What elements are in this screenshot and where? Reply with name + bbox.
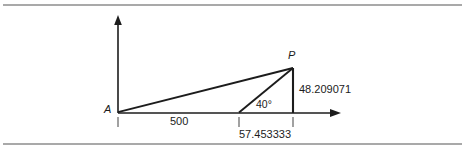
x-axis-arrowhead xyxy=(330,109,341,117)
figure-container: A P 48.209071 500 57.453333 40° xyxy=(0,0,475,150)
y-axis-arrowhead xyxy=(114,15,122,25)
point-p-label: P xyxy=(288,50,295,61)
geometry-diagram xyxy=(0,0,475,150)
point-a-label: A xyxy=(104,104,111,115)
x-axis xyxy=(118,109,341,117)
base-value-label: 500 xyxy=(170,116,188,127)
offset-value-label: 57.453333 xyxy=(239,129,291,140)
y-axis xyxy=(114,15,122,113)
height-value-label: 48.209071 xyxy=(299,84,351,95)
angle-value-label: 40° xyxy=(256,99,272,110)
